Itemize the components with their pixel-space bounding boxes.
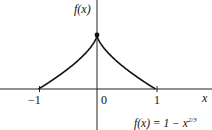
function-plot [0, 0, 212, 130]
x-axis-label: x [202, 92, 207, 104]
tick-label-1: 1 [154, 94, 160, 106]
formula-text: f(x) = 1 − x [134, 117, 188, 129]
formula-exponent: 2/3 [188, 116, 197, 124]
peak-point [95, 33, 100, 38]
tick-label-neg1: −1 [28, 94, 41, 106]
tick-label-0: 0 [101, 94, 107, 106]
function-formula: f(x) = 1 − x2/3 [134, 114, 197, 129]
y-axis-label: f(x) [74, 3, 91, 15]
